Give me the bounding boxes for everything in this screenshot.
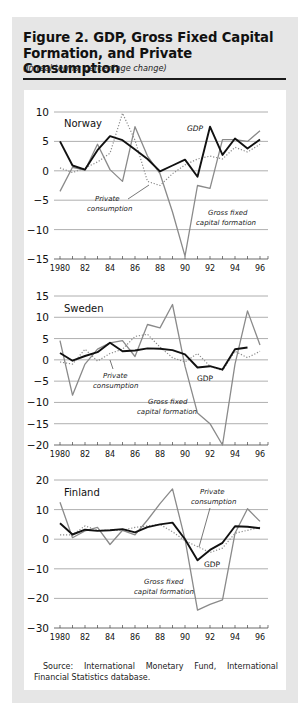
y-tick-label: −20 (27, 592, 49, 604)
y-tick-label: 5 (42, 135, 49, 147)
x-tick-label: 92 (205, 633, 215, 642)
panel-title-finland: Finland (64, 487, 100, 498)
x-tick-label: 82 (80, 264, 90, 273)
x-tick-label: 90 (180, 450, 190, 459)
y-tick-label: −10 (27, 396, 49, 408)
x-tick-label: 90 (180, 633, 190, 642)
x-tick-label: 94 (230, 264, 240, 273)
x-tick-label: 96 (255, 633, 265, 642)
x-tick-label: 84 (105, 264, 115, 273)
y-tick-label: −5 (34, 194, 49, 206)
source-text: Source: International Monetary Fund, Int… (34, 662, 278, 682)
label-gf-sweden-2: capital formation (137, 408, 197, 416)
x-tick-label: 92 (205, 450, 215, 459)
x-tick-label: 88 (155, 633, 165, 642)
label-pc-norway-1: Private (95, 195, 120, 203)
norway-chart: 1050−5−10−1519808284868890929496 (27, 106, 268, 273)
y-tick-label: 5 (42, 333, 49, 345)
panel-title-norway: Norway (64, 118, 102, 129)
source-note: Source: International Monetary Fund, Int… (34, 661, 278, 683)
label-gdp-finland: GDP (204, 560, 221, 569)
label-pc-sweden-2: consumption (93, 382, 138, 390)
y-tick-label: 10 (36, 504, 49, 516)
label-gf-norway-2: capital formation (196, 219, 256, 227)
x-tick-label: 84 (105, 633, 115, 642)
label-gdp-sweden: GDP (197, 374, 214, 383)
x-tick-label: 88 (155, 450, 165, 459)
label-pc-finland-1: Private (200, 488, 225, 496)
y-tick-label: 0 (42, 533, 49, 545)
y-tick-label: 15 (36, 290, 49, 302)
label-gf-finland-2: capital formation (134, 588, 194, 596)
x-tick-label: 94 (230, 450, 240, 459)
label-gf-norway-1: Gross fixed (208, 209, 248, 217)
leader-pc-finland (199, 508, 210, 547)
y-tick-label: 0 (42, 165, 49, 177)
x-tick-label: 88 (155, 264, 165, 273)
y-tick-label: 0 (42, 354, 49, 366)
gdp-line (60, 127, 260, 177)
y-tick-label: −30 (27, 622, 49, 634)
y-tick-label: −10 (27, 563, 49, 575)
x-tick-label: 90 (180, 264, 190, 273)
x-tick-label: 96 (255, 264, 265, 273)
label-gdp-norway: GDP (187, 124, 204, 133)
charts-canvas: 1050−5−10−1519808284868890929496 151050−… (0, 0, 307, 715)
y-tick-label: 20 (36, 474, 49, 486)
x-tick-label: 96 (255, 450, 265, 459)
label-gf-finland-1: Gross fixed (144, 578, 184, 586)
x-tick-label: 86 (130, 264, 140, 273)
x-tick-label: 86 (130, 633, 140, 642)
x-tick-label: 84 (105, 450, 115, 459)
label-pc-norway-2: consumption (87, 205, 132, 213)
label-pc-finland-2: consumption (191, 498, 236, 506)
label-gf-sweden-1: Gross fixed (148, 398, 188, 406)
private-consumption-line (60, 334, 260, 370)
y-tick-label: −10 (27, 224, 49, 236)
y-tick-label: 10 (36, 311, 49, 323)
y-tick-label: −15 (27, 253, 49, 265)
x-tick-label: 1980 (50, 633, 70, 642)
x-tick-label: 1980 (50, 450, 70, 459)
x-tick-label: 86 (130, 450, 140, 459)
leader-pc-sweden (110, 360, 113, 369)
x-tick-label: 1980 (50, 264, 70, 273)
x-tick-label: 82 (80, 633, 90, 642)
gdp-line (60, 343, 248, 370)
panel-title-sweden: Sweden (64, 303, 104, 314)
y-tick-label: −20 (27, 439, 49, 451)
sweden-chart: 151050−5−10−15−2019808284868890929496 (27, 290, 268, 459)
private-consumption-line (60, 524, 260, 552)
y-tick-label: −15 (27, 418, 49, 430)
y-tick-label: 10 (36, 106, 49, 118)
x-tick-label: 94 (230, 633, 240, 642)
x-tick-label: 82 (80, 450, 90, 459)
y-tick-label: −5 (34, 375, 49, 387)
x-tick-label: 92 (205, 264, 215, 273)
leader-pc-norway (128, 185, 149, 199)
label-pc-sweden-1: Private (103, 372, 128, 380)
